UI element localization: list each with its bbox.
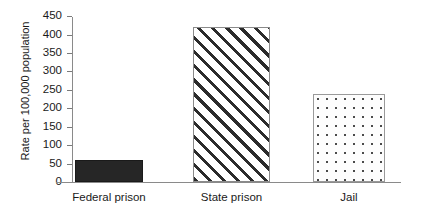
bar-jail bbox=[313, 94, 385, 182]
y-tick-label-250: 250 bbox=[22, 84, 67, 96]
bar-state-prison bbox=[193, 27, 270, 182]
y-tick-label-350: 350 bbox=[22, 47, 67, 59]
y-tick-label-150: 150 bbox=[22, 121, 67, 133]
y-tick-label-450: 450 bbox=[22, 10, 67, 22]
y-axis-line bbox=[72, 17, 73, 183]
y-tick-label-300: 300 bbox=[22, 66, 67, 78]
bar-chart: Rate per 100,000 population 0 50 100 150… bbox=[0, 0, 421, 217]
x-category-label-state-prison: State prison bbox=[182, 190, 282, 204]
y-axis-tick-labels: 0 50 100 150 200 250 300 350 400 450 bbox=[22, 0, 67, 217]
y-tick-label-100: 100 bbox=[22, 139, 67, 151]
y-tick-label-400: 400 bbox=[22, 29, 67, 41]
y-tick-label-200: 200 bbox=[22, 103, 67, 115]
x-category-label-federal-prison: Federal prison bbox=[59, 190, 159, 204]
x-category-label-jail: Jail bbox=[299, 190, 399, 204]
y-tick-label-50: 50 bbox=[22, 158, 67, 170]
bar-federal-prison bbox=[75, 160, 143, 182]
x-axis-line bbox=[56, 182, 401, 183]
